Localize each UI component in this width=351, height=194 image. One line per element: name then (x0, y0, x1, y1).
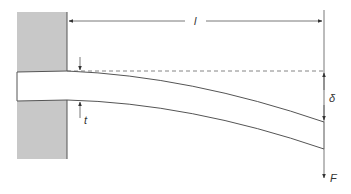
force-label: F (330, 172, 338, 184)
deflection-label: δ (329, 92, 336, 104)
cantilever-diagram: l δ F t (0, 0, 351, 194)
thickness-label: t (84, 114, 88, 126)
length-label: l (194, 15, 197, 27)
